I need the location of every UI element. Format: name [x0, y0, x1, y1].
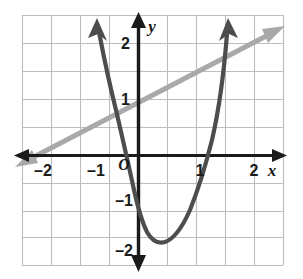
x-tick-label-neg2: –2 [34, 162, 52, 179]
x-tick-label-pos2: 2 [250, 162, 259, 179]
x-axis-label: x [267, 161, 277, 180]
coordinate-plane-figure: –2 –1 1 2 2 1 –1 –2 O x y [0, 0, 303, 279]
y-tick-label-neg2: –2 [115, 242, 133, 259]
origin-label: O [118, 156, 130, 173]
y-tick-label-neg1: –1 [115, 192, 133, 209]
x-tick-label-neg1: –1 [87, 162, 105, 179]
y-tick-label-pos2: 2 [121, 35, 130, 52]
y-axis-label: y [146, 17, 156, 36]
x-tick-label-pos1: 1 [196, 162, 205, 179]
y-tick-label-pos1: 1 [121, 91, 130, 108]
